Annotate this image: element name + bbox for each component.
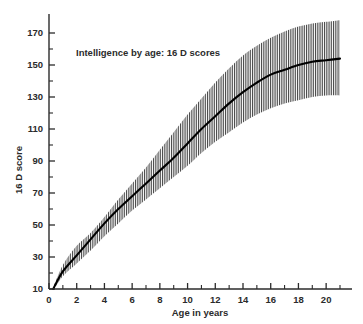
y-tick-label: 30: [32, 251, 43, 262]
y-axis-title: 16 D score: [13, 146, 24, 194]
x-tick-label: 4: [102, 294, 108, 305]
x-tick-label: 10: [182, 294, 193, 305]
y-tick-label: 50: [32, 219, 43, 230]
y-tick-label: 70: [32, 187, 43, 198]
x-tick-label: 16: [265, 294, 276, 305]
y-tick-label: 110: [28, 123, 43, 134]
x-tick-label: 8: [157, 294, 162, 305]
x-tick-label: 12: [210, 294, 221, 305]
chart-figure: 1030507090110130150170 02468101214161820…: [0, 0, 363, 324]
y-tick-label: 150: [27, 59, 43, 70]
x-tick-label: 18: [293, 294, 304, 305]
x-tick-label: 2: [74, 294, 79, 305]
chart-title: Intelligence by age: 16 D scores: [76, 47, 220, 58]
y-tick-label: 90: [32, 155, 43, 166]
x-axis-title: Age in years: [172, 307, 229, 318]
y-tick-label: 10: [32, 283, 43, 294]
x-tick-label: 6: [129, 294, 134, 305]
y-tick-label: 130: [27, 91, 43, 102]
x-tick-label: 0: [46, 294, 51, 305]
chart-svg: 1030507090110130150170 02468101214161820…: [0, 0, 363, 324]
x-tick-label: 14: [238, 294, 249, 305]
y-tick-label: 170: [27, 27, 43, 38]
x-tick-label: 20: [321, 294, 332, 305]
